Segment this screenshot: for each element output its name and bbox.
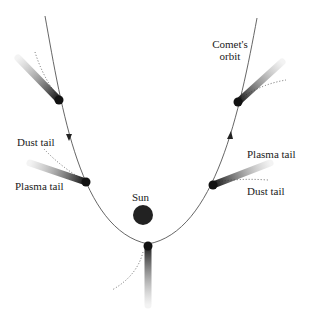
comet-bottom [112, 242, 153, 306]
right-dust-tail-label: Dust tail [247, 185, 285, 197]
comet-orbit-diagram: Comet's orbit Dust tail Plasma tail Plas… [0, 0, 312, 314]
left-dust-tail-label: Dust tail [17, 136, 55, 148]
orbit-label: Comet's orbit [205, 38, 255, 62]
sun-label: Sun [132, 191, 149, 203]
orbit-label-line1: Comet's [205, 38, 255, 50]
orbit-label-line2: orbit [205, 50, 255, 62]
sun-icon [133, 205, 153, 225]
arrow-up-icon [227, 131, 233, 139]
left-plasma-tail-label: Plasma tail [15, 180, 64, 192]
right-plasma-tail-label: Plasma tail [247, 148, 296, 160]
comet-upper-right [234, 62, 287, 107]
